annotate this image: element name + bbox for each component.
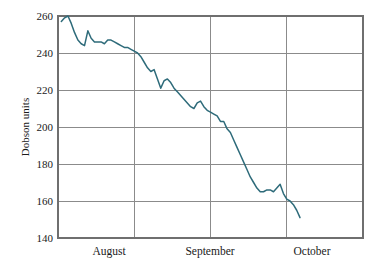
y-tick-140: 140 <box>37 232 54 244</box>
y-axis-tick-labels: 260 240 220 200 180 160 140 <box>37 10 54 244</box>
chart-page: 260 240 220 200 180 160 140 August Septe… <box>0 0 376 268</box>
y-axis-title: Dobson units <box>19 98 31 156</box>
y-tick-240: 240 <box>37 47 54 59</box>
y-tick-220: 220 <box>37 84 54 96</box>
y-tick-180: 180 <box>37 158 54 170</box>
x-tick-september: September <box>185 245 234 258</box>
ozone-line-chart: 260 240 220 200 180 160 140 August Septe… <box>0 0 376 268</box>
y-tick-200: 200 <box>37 121 54 133</box>
x-tick-august: August <box>92 245 126 258</box>
y-tick-260: 260 <box>37 10 54 22</box>
x-tick-october: October <box>293 245 330 257</box>
series-line-total-ozone <box>61 16 300 218</box>
y-tick-160: 160 <box>37 195 54 207</box>
x-axis-tick-labels: August September October <box>92 245 330 258</box>
